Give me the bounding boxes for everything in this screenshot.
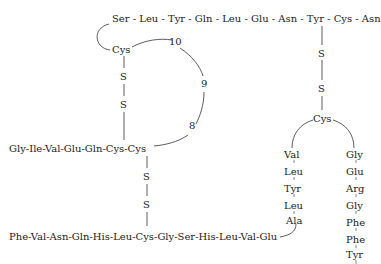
b-turn-cys: Cys [313, 114, 331, 124]
b-right-residue: Gly [346, 201, 363, 211]
b-right-residue: Tyr [346, 250, 363, 260]
b-chain: Phe-Val-Asn-Gln-His-Leu-Cys-Gly-Ser-His-… [9, 232, 277, 242]
label-8: 8 [189, 121, 195, 131]
b-right-residue: Phe [346, 235, 365, 245]
sulfur: S [143, 200, 150, 210]
b-right-residue: Gly [346, 150, 363, 160]
sulfur: S [120, 100, 127, 110]
a-chain-start: Gly-Ile-Val-Glu-Gln-Cys-Cys [9, 144, 146, 154]
b-left-residue: Val [284, 150, 299, 160]
a-chain-top: Ser - Leu - Tyr - Gln - Leu - Glu - Asn … [112, 14, 381, 24]
b-left-residue: Ala [286, 216, 302, 226]
sulfur: S [318, 49, 325, 59]
b-left-residue: Leu [284, 167, 303, 177]
sulfur: S [143, 172, 150, 182]
sulfur: S [120, 72, 127, 82]
b-right-residue: Arg [346, 184, 364, 194]
label-9: 9 [201, 79, 207, 89]
b-left-residue: Leu [284, 201, 303, 211]
b-right-residue: Glu [346, 167, 364, 177]
sulfur: S [318, 84, 325, 94]
b-right-residue: Phe [346, 218, 365, 228]
b-left-residue: Tyr [284, 184, 301, 194]
label-10: 10 [169, 37, 182, 47]
a-loop-cys: Cys [112, 45, 130, 55]
